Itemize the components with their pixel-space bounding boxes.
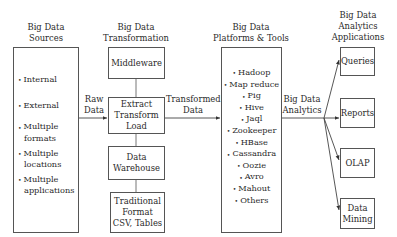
edge-text: Data (80, 105, 108, 116)
platform-item: •Hadoop (221, 67, 282, 79)
heading-line: Applications (328, 32, 388, 43)
platforms-list: •Hadoop •Map reduce •Pig •Hive •Jaql •Zo… (221, 67, 282, 206)
edge-text: Raw (80, 94, 108, 105)
box-text: Middleware (111, 58, 162, 69)
source-item-external: •External (18, 100, 74, 112)
heading-line: Analytics (328, 21, 388, 32)
platform-item: •Hive (221, 102, 282, 114)
platform-text: HBase (241, 137, 268, 147)
edge-label-raw-data: Raw Data (80, 94, 108, 116)
heading-line: Big Data (328, 10, 388, 21)
platform-item: •Mahout (221, 183, 282, 195)
bullet-icon: • (233, 185, 237, 192)
source-text: External (24, 100, 59, 110)
source-text: locations (18, 159, 74, 170)
box-text: Traditional (114, 196, 161, 207)
platform-text: Pig (248, 90, 261, 100)
source-text: Multiple (24, 121, 59, 131)
edge-text: Transformed (166, 94, 220, 105)
bullet-icon: • (237, 162, 241, 169)
bullet-icon: • (18, 176, 22, 183)
platform-item: •Cassandra (221, 148, 282, 160)
box-text: Reports (341, 108, 374, 119)
bullet-icon: • (235, 197, 239, 204)
heading-line: Big Data (15, 22, 77, 33)
source-item-applications: •Multiple applications (18, 174, 74, 197)
heading-line: Big Data (211, 22, 291, 33)
box-text: Transform (114, 110, 158, 121)
platform-text: Map reduce (229, 79, 279, 89)
heading-line: Platforms & Tools (211, 33, 291, 44)
bullet-icon: • (241, 116, 245, 123)
source-item-locations: •Multiple locations (18, 148, 74, 171)
bullet-icon: • (227, 151, 231, 158)
heading-line: Sources (15, 33, 77, 44)
queries-box: Queries (340, 47, 375, 76)
bullet-icon: • (239, 174, 243, 181)
source-text: applications (18, 185, 74, 196)
platform-item: •Zookeeper (221, 125, 282, 137)
heading-line: Big Data (100, 22, 172, 33)
source-item-internal: •Internal (18, 74, 74, 86)
platform-text: Avro (245, 171, 264, 181)
platform-text: Hive (245, 102, 264, 112)
box-text: OLAP (345, 158, 369, 169)
box-text: Data (126, 152, 146, 163)
source-text: Multiple (24, 174, 59, 184)
platform-text: Hadoop (238, 67, 270, 77)
reports-box: Reports (340, 98, 375, 128)
heading-line: Transformation (100, 33, 172, 44)
olap-box: OLAP (340, 148, 375, 178)
source-text: formats (18, 133, 74, 144)
etl-box: Extract Transform Load (108, 97, 165, 134)
platform-text: Mahout (238, 183, 270, 193)
middleware-box: Middleware (108, 47, 165, 79)
edge-text: Analytics (282, 105, 322, 116)
heading-applications: Big Data Analytics Applications (328, 10, 388, 43)
box-text: Load (126, 121, 147, 132)
box-text: Mining (342, 214, 372, 225)
data-warehouse-box: Data Warehouse (108, 146, 165, 180)
platform-item: •HBase (221, 137, 282, 149)
box-text: Data (347, 203, 367, 214)
source-item-formats: •Multiple formats (18, 121, 74, 144)
bullet-icon: • (233, 69, 237, 76)
bullet-icon: • (18, 76, 22, 83)
edge-label-transformed-data: Transformed Data (166, 94, 220, 116)
platform-item: •Oozie (221, 160, 282, 172)
box-text: Extract (121, 99, 152, 110)
platform-text: Zookeeper (232, 125, 276, 135)
platform-text: Oozie (243, 160, 266, 170)
heading-platforms: Big Data Platforms & Tools (211, 22, 291, 44)
platform-item: •Jaql (221, 113, 282, 125)
platform-item: •Pig (221, 90, 282, 102)
source-text: Internal (24, 74, 57, 84)
bullet-icon: • (224, 81, 228, 88)
box-text: Queries (341, 56, 374, 67)
bullet-icon: • (239, 104, 243, 111)
box-text: Warehouse (113, 163, 160, 174)
edge-label-analytics: Big Data Analytics (282, 94, 322, 116)
box-text: CSV, Tables (113, 218, 162, 229)
heading-transformation: Big Data Transformation (100, 22, 172, 44)
platform-text: Others (240, 195, 268, 205)
platform-item: •Avro (221, 171, 282, 183)
platform-text: Cassandra (232, 148, 276, 158)
sources-list: •Internal •External •Multiple formats •M… (18, 74, 74, 197)
data-mining-box: Data Mining (340, 198, 375, 229)
edge-text: Big Data (282, 94, 322, 105)
edge-text: Data (166, 105, 220, 116)
platform-text: Jaql (246, 113, 262, 123)
bullet-icon: • (235, 139, 239, 146)
platform-item: •Map reduce (221, 79, 282, 91)
bullet-icon: • (242, 93, 246, 100)
traditional-format-box: Traditional Format CSV, Tables (110, 192, 165, 233)
source-text: Multiple (24, 148, 59, 158)
bullet-icon: • (18, 102, 22, 109)
box-text: Format (122, 207, 153, 218)
heading-sources: Big Data Sources (15, 22, 77, 44)
bullet-icon: • (18, 124, 22, 131)
bullet-icon: • (18, 150, 22, 157)
bullet-icon: • (227, 127, 231, 134)
platform-item: •Others (221, 195, 282, 207)
